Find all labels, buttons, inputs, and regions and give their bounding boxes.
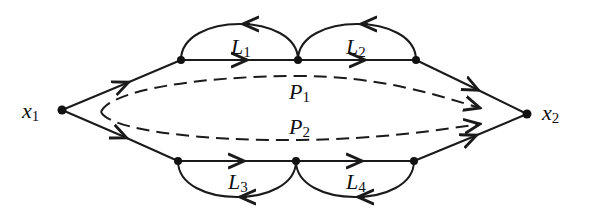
node-x2	[523, 110, 532, 119]
node-x1	[58, 106, 67, 115]
label-L3: L3	[227, 169, 248, 195]
edge-x1-to-top1	[62, 60, 181, 110]
nodes	[58, 56, 532, 165]
label-L2: L2	[345, 34, 366, 60]
signal-flow-graph: x1 x2 L1 L2 L3 L4 P1 P2	[0, 0, 595, 215]
label-L4: L4	[345, 169, 366, 195]
edge-bot3-to-x2	[414, 114, 527, 161]
label-x2: x2	[541, 100, 559, 126]
node-top3	[412, 56, 420, 64]
label-x1: x1	[21, 98, 39, 124]
node-bot3	[410, 157, 418, 165]
label-P2: P2	[288, 114, 310, 140]
node-bot1	[174, 157, 182, 165]
node-bot2	[292, 157, 300, 165]
edge-x1-to-bot1	[62, 110, 178, 161]
node-top2	[294, 56, 302, 64]
label-P1: P1	[288, 79, 310, 105]
label-L1: L1	[230, 34, 251, 60]
node-top1	[177, 56, 185, 64]
